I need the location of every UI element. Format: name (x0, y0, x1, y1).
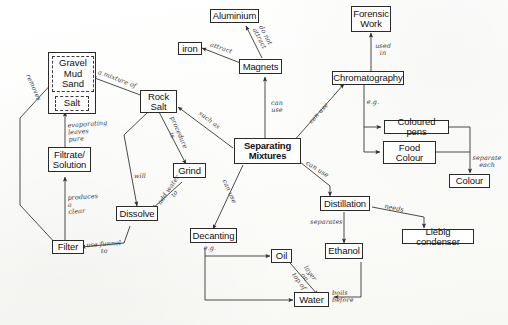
edge-label-needs: needs (383, 203, 406, 214)
edge-label-produces-a-clear: produces a clear (67, 193, 98, 217)
edge-label-a-mixture-of: a mixture of (95, 68, 139, 90)
edge-label-layer: do not attract attract can use used in c… (0, 0, 508, 325)
edge-label-such-as: such as (197, 110, 222, 132)
edge-label-procedure-is: procedure is (161, 114, 189, 155)
edge-label-layer-on-top-of: layer on top of (288, 261, 321, 295)
edge-label-will: will (133, 173, 147, 180)
edge-label-attract: attract (207, 41, 236, 57)
edge-label-use-funnel-to: use funnel to (86, 240, 123, 257)
edge-label-can-use-magnets: can use (268, 100, 286, 114)
edge-label-separates: separates (310, 219, 343, 226)
edge-label-add-water-to: add water to (157, 174, 188, 210)
edge-label-removes: removes (24, 73, 42, 101)
edge-label-can-use-chromatography: can use (307, 101, 331, 127)
edge-label-can-use-distillation: can use (303, 159, 331, 180)
edge-label-do-not-attract: do not attract (249, 21, 276, 54)
edge-label-boils-before: boils before (332, 290, 358, 304)
edge-label-separate-each: separate each (472, 155, 502, 169)
edge-label-can-use-decanting: can use (220, 177, 238, 205)
edge-label-evaporating-leaves-pure: evaporating leaves pure (67, 120, 110, 144)
edge-label-used-in: used in (374, 43, 392, 57)
concept-map-canvas: Gravel Mud Sand Salt Aluminium iron Magn… (0, 0, 508, 325)
edge-label-eg-decanting: e.g. (203, 245, 217, 252)
edge-label-eg-chromatography: e.g. (366, 99, 380, 106)
